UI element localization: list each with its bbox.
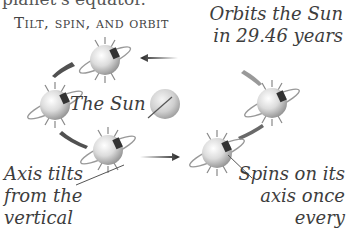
spin-label: Spins on its axis once every 10.66 hours bbox=[205, 163, 345, 228]
arrow-bottom-left bbox=[59, 131, 88, 149]
planet-top-left bbox=[77, 37, 133, 83]
spin-label-line-1: Spins on its bbox=[205, 163, 345, 185]
arrow-bottom bbox=[140, 153, 180, 161]
axis-label-line-2: from the vertical bbox=[4, 185, 154, 228]
arrow-top-right bbox=[241, 70, 262, 86]
axis-label-line-1: Axis tilts bbox=[4, 163, 154, 185]
arrow-top bbox=[140, 54, 178, 62]
sun-sphere bbox=[150, 89, 180, 119]
planet-right bbox=[242, 80, 301, 126]
sun bbox=[148, 89, 180, 119]
spin-label-line-2: axis once every bbox=[205, 185, 345, 228]
arrow-top-left bbox=[52, 62, 75, 78]
arrow-bottom-right bbox=[238, 124, 264, 140]
sun-label: The Sun bbox=[70, 95, 146, 113]
axis-tilt-label: Axis tilts from the vertical by 26.7° bbox=[4, 163, 154, 228]
